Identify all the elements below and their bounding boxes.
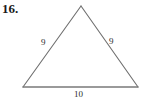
triangle-right-side (81, 6, 138, 87)
isosceles-triangle-figure (0, 0, 144, 107)
side-length-label-left: 9 (41, 37, 46, 47)
problem-figure-page: 16. 9 9 10 (0, 0, 144, 107)
side-length-label-base: 10 (74, 89, 83, 99)
triangle-left-side (23, 6, 81, 87)
side-length-label-right: 9 (109, 36, 114, 46)
